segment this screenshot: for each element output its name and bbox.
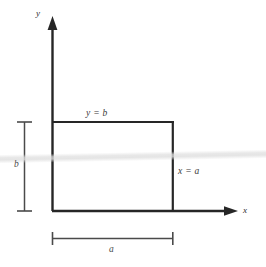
dimension-label-a: a: [109, 245, 114, 255]
dimension-b: [17, 122, 32, 211]
y-axis-arrowhead-icon: [48, 16, 58, 30]
y-axis: [48, 16, 58, 211]
line-label-x-equals-a: x = a: [178, 167, 200, 177]
x-axis: [52, 206, 238, 216]
figure-canvas: [0, 0, 266, 267]
dimension-label-b: b: [14, 160, 19, 170]
geometry-figure: y x y = b x = a b a: [0, 0, 266, 267]
y-axis-label: y: [36, 9, 40, 18]
rectangle-boundary: [52, 121, 174, 211]
x-axis-label: x: [243, 206, 247, 215]
x-axis-arrowhead-icon: [224, 206, 238, 216]
line-label-y-equals-b: y = b: [86, 109, 108, 119]
